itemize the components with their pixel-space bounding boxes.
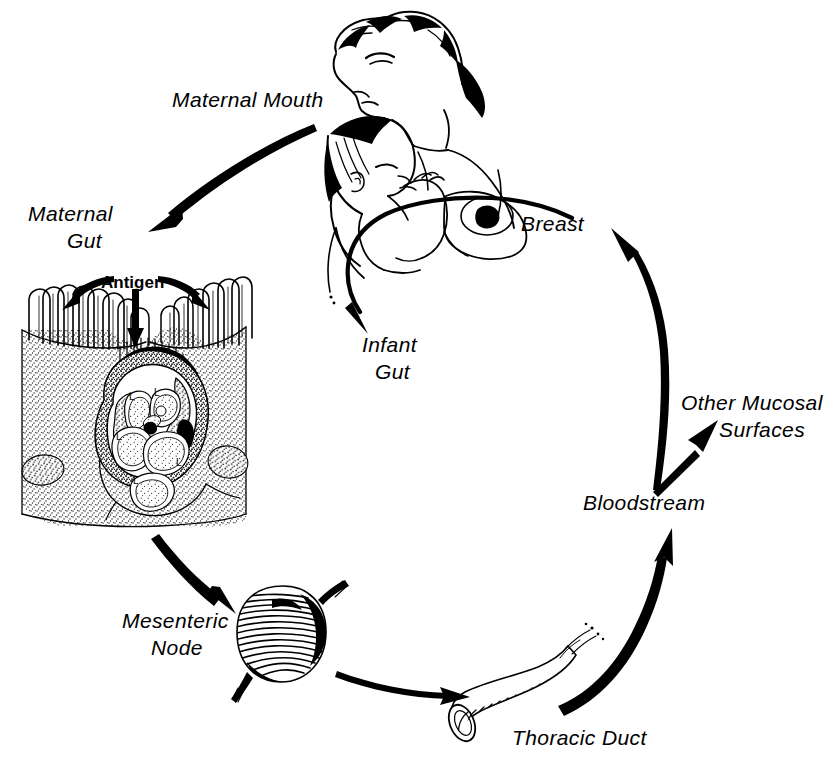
arrow-gut-to-node <box>151 534 236 614</box>
label-breast: Breast <box>521 212 585 235</box>
lymphocyte-label: L <box>154 387 160 398</box>
label-other-mucosal-line2: Surfaces <box>719 418 805 441</box>
label-bloodstream: Bloodstream <box>583 491 705 514</box>
arrow-duct-to-bloodstream <box>558 528 673 716</box>
diagram-canvas: M L L L L L <box>0 0 835 767</box>
lymphocyte-label: L <box>176 457 182 468</box>
arrow-mouth-to-gut <box>148 124 317 232</box>
label-thoracic-duct: Thoracic Duct <box>512 726 648 749</box>
arrow-node-to-duct <box>335 671 470 705</box>
lymphocyte-label: L <box>133 475 139 486</box>
arrow-bloodstream-to-breast <box>611 228 669 490</box>
mesenteric-node-illustration <box>226 580 349 703</box>
label-mesenteric-node-line1: Mesenteric <box>122 609 229 632</box>
label-infant-gut-line1: Infant <box>362 333 418 356</box>
lymphocyte-label: L <box>116 431 122 442</box>
label-maternal-gut-line1: Maternal <box>28 202 114 225</box>
label-antigen: Antigen <box>101 273 164 292</box>
label-other-mucosal-line1: Other Mucosal <box>681 391 824 414</box>
mother-infant-illustration <box>324 12 526 278</box>
villi-right <box>161 277 252 348</box>
lymphocyte-label: L <box>129 391 135 402</box>
label-mesenteric-node-line2: Node <box>151 636 203 659</box>
label-maternal-gut-line2: Gut <box>67 229 103 252</box>
label-infant-gut-line2: Gut <box>375 360 411 383</box>
label-maternal-mouth: Maternal Mouth <box>172 88 324 111</box>
